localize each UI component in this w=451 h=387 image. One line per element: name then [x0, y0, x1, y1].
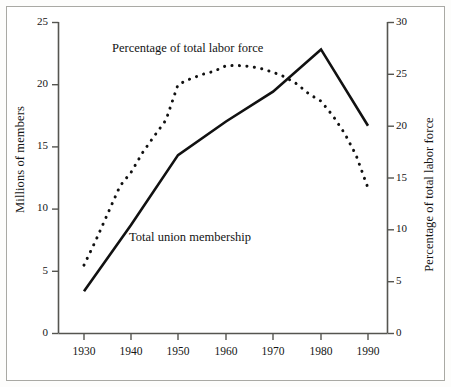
x-tick-label-1970: 1970: [253, 345, 293, 357]
series-total-union-membership: [84, 49, 368, 291]
x-tick-label-1960: 1960: [206, 345, 246, 357]
chart-plot-area: [0, 0, 451, 387]
right-axis-title: Percentage of total labor force: [422, 85, 437, 305]
right-tick-label-5: 5: [396, 274, 422, 286]
right-tick-label-10: 10: [396, 222, 422, 234]
figure-container: 25 20 15 10 5 0 30 25 20 15 10 5 0 1930 …: [0, 0, 451, 387]
left-tick-label-25: 25: [22, 15, 48, 27]
right-tick-label-30: 30: [396, 15, 422, 27]
right-tick-label-15: 15: [396, 171, 422, 183]
right-tick-label-0: 0: [396, 326, 422, 338]
x-tick-label-1980: 1980: [301, 345, 341, 357]
x-tick-label-1930: 1930: [64, 345, 104, 357]
right-axis-ticks: [388, 23, 395, 334]
left-axis-title: Millions of members: [13, 80, 28, 240]
x-tick-label-1940: 1940: [111, 345, 151, 357]
right-tick-label-20: 20: [396, 119, 422, 131]
left-tick-label-5: 5: [22, 264, 48, 276]
left-axis-ticks: [52, 23, 59, 334]
annotation-total-union-membership: Total union membership: [129, 230, 251, 245]
x-tick-label-1950: 1950: [158, 345, 198, 357]
annotation-percentage-of-total-labor-force: Percentage of total labor force: [112, 41, 263, 56]
x-tick-label-1990: 1990: [348, 345, 388, 357]
x-axis-ticks: [84, 334, 368, 341]
right-tick-label-25: 25: [396, 67, 422, 79]
left-tick-label-0: 0: [22, 326, 48, 338]
